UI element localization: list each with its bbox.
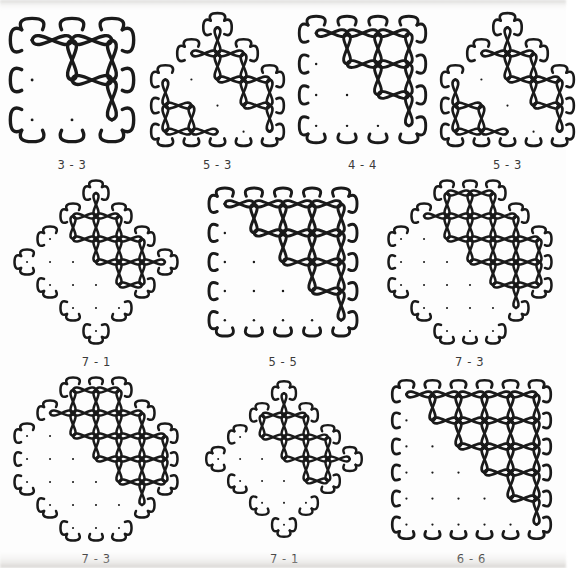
kolam-drawing	[200, 371, 368, 547]
kolam-caption: 7 - 3	[455, 350, 484, 371]
kolam-figure: 7 - 1	[200, 371, 368, 568]
kolam-figure: 5 - 5	[201, 174, 365, 371]
kolam-figure: 4 - 4	[291, 6, 434, 174]
kolam-grid-row: 3 - 3 5 - 3 4 - 4 5 - 3	[0, 6, 566, 174]
kolam-caption: 5 - 5	[268, 350, 297, 371]
kolam-drawing	[434, 6, 580, 153]
kolam-caption: 7 - 1	[270, 547, 299, 568]
kolam-drawing	[144, 6, 291, 153]
kolam-caption: 5 - 3	[493, 153, 522, 174]
kolam-caption: 4 - 4	[348, 153, 377, 174]
kolam-caption: 7 - 1	[82, 350, 111, 371]
kolam-figure: 7 - 3	[382, 174, 558, 371]
kolam-figure: 5 - 3	[144, 6, 291, 174]
kolam-drawing	[382, 174, 558, 350]
kolam-caption: 3 - 3	[57, 153, 86, 174]
kolam-grid: 3 - 3 5 - 3 4 - 4 5 - 3 7 - 1 5 -	[0, 6, 566, 562]
kolam-caption: 6 - 6	[457, 547, 486, 568]
kolam-figure: 6 - 6	[385, 371, 558, 568]
kolam-figure: 7 - 1	[8, 174, 184, 371]
kolam-caption: 5 - 3	[203, 153, 232, 174]
kolam-drawing	[201, 174, 365, 350]
kolam-figure: 5 - 3	[434, 6, 580, 174]
kolam-drawing	[291, 6, 434, 153]
kolam-drawing	[8, 371, 184, 547]
kolam-caption: 7 - 3	[82, 547, 111, 568]
kolam-grid-row: 7 - 1 5 - 5 7 - 3	[0, 174, 566, 371]
kolam-drawing	[8, 174, 184, 350]
kolam-figure: 7 - 3	[8, 371, 184, 568]
kolam-drawing	[385, 371, 558, 547]
kolam-figure: 3 - 3	[0, 6, 144, 174]
kolam-grid-row: 7 - 3 7 - 1 6 - 6	[0, 371, 566, 568]
kolam-drawing	[0, 6, 144, 153]
